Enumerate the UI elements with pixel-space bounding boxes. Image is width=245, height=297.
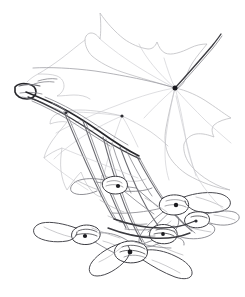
leaf-vein-node	[173, 86, 178, 91]
botanical-illustration	[0, 0, 245, 297]
terminal-bud	[15, 84, 36, 99]
samara-node	[128, 250, 133, 255]
second-leaf-vein-node	[120, 114, 123, 117]
samara-node	[116, 184, 120, 188]
branch-twig	[15, 79, 140, 159]
drawing-canvas	[0, 0, 245, 297]
samara-node	[174, 203, 178, 207]
samara-node	[83, 234, 87, 238]
main-leaf-blade	[27, 13, 231, 190]
main-leaf-veins	[33, 34, 231, 186]
samara-nutlet	[102, 176, 127, 194]
samara-node	[161, 232, 165, 236]
